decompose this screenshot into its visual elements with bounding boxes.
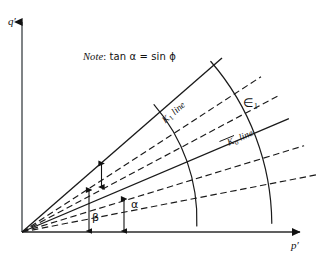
radial-line-k1 <box>22 58 222 232</box>
arc-group <box>154 62 272 226</box>
note-word: Note <box>83 51 103 62</box>
inner-arc <box>154 105 197 226</box>
epsilon-1-label: ∈1 <box>243 97 258 110</box>
x-axis-label: p′ <box>291 240 300 251</box>
radial-line-epsilon-lower <box>22 146 304 232</box>
y-axis-label: q′ <box>8 16 17 27</box>
diagram-canvas <box>0 0 323 268</box>
beta-angle-label: β <box>92 212 99 223</box>
dashed-radial-lines <box>22 77 317 232</box>
note-equation: tan α = sin ϕ <box>106 51 176 62</box>
stress-path-figure: q′ p′ Note: tan α = sin ϕ K1 line Ko lin… <box>0 0 323 268</box>
note-annotation: Note: tan α = sin ϕ <box>83 52 176 63</box>
alpha-angle-label: α <box>131 199 138 210</box>
radial-line-epsilon-mid <box>22 96 278 232</box>
